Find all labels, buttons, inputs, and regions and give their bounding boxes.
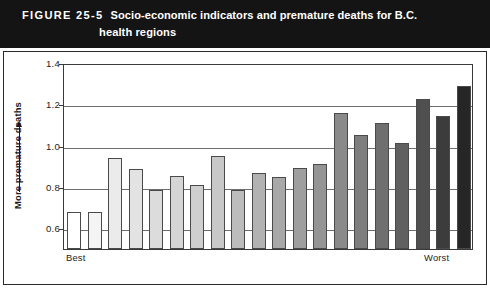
y-tick-mark	[59, 105, 63, 106]
y-tick-mark	[59, 64, 63, 65]
bar	[354, 135, 368, 249]
plot-area	[63, 64, 473, 250]
y-tick-label: 0.6	[46, 223, 60, 234]
bar	[313, 164, 327, 249]
bar	[149, 190, 163, 249]
y-tick-label: 0.8	[46, 182, 60, 193]
y-tick-label: 1.2	[46, 99, 60, 110]
y-tick-label: 1.0	[46, 141, 60, 152]
bar	[375, 123, 389, 249]
y-axis-tick-labels: 0.60.81.01.21.4	[24, 64, 60, 250]
x-axis-label-worst: Worst	[424, 252, 449, 263]
y-axis-label: More premature deaths	[12, 73, 23, 239]
bar	[395, 143, 409, 249]
bar	[272, 177, 286, 249]
bar	[88, 212, 102, 249]
bar	[67, 212, 81, 249]
x-axis-label-best: Best	[66, 252, 86, 263]
bar	[129, 169, 143, 249]
y-tick-mark	[59, 229, 63, 230]
bar	[252, 173, 266, 249]
figure-title-line-2: health regions	[99, 24, 482, 41]
bar	[190, 185, 204, 249]
bar	[170, 176, 184, 249]
bar	[293, 168, 307, 249]
figure-header-bar: FIGURE 25-5Socio-economic indicators and…	[0, 0, 490, 48]
figure-number: FIGURE 25-5	[22, 9, 104, 21]
bar	[231, 190, 245, 249]
figure-header-text: FIGURE 25-5Socio-economic indicators and…	[22, 7, 482, 40]
figure-title-line-1: Socio-economic indicators and premature …	[111, 9, 418, 21]
bar	[436, 116, 450, 249]
y-tick-mark	[59, 147, 63, 148]
bar	[211, 156, 225, 249]
y-tick-mark	[59, 188, 63, 189]
y-tick-label: 1.4	[46, 58, 60, 69]
figure-container: FIGURE 25-5Socio-economic indicators and…	[0, 0, 490, 288]
bar-series	[64, 64, 473, 249]
plot-frame	[63, 64, 473, 250]
bar	[334, 113, 348, 249]
bar	[416, 99, 430, 249]
bar	[108, 158, 122, 249]
bar	[457, 86, 471, 249]
